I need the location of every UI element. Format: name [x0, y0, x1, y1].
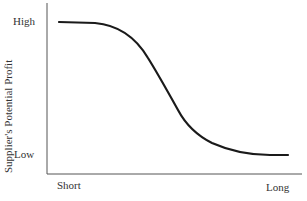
chart-canvas: [0, 0, 307, 201]
y-tick-low: Low: [14, 148, 34, 160]
x-tick-short: Short: [57, 179, 81, 191]
y-tick-high: High: [13, 15, 35, 27]
x-tick-long: Long: [266, 181, 289, 193]
profit-curve: [59, 22, 288, 155]
y-axis-title: Supplier's Potential Profit: [2, 60, 14, 173]
